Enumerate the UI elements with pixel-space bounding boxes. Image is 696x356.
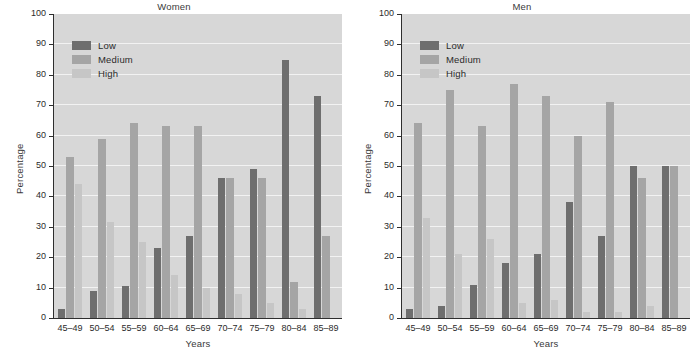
legend-label: Medium — [446, 54, 481, 65]
y-axis-tick — [49, 288, 53, 289]
bar — [470, 285, 478, 318]
y-axis-tick-label: 50 — [10, 160, 46, 170]
bar — [107, 222, 115, 318]
bar — [203, 288, 211, 318]
y-axis-tick — [397, 257, 401, 258]
y-axis-tick — [49, 257, 53, 258]
x-axis-tick-label: 75–79 — [244, 323, 280, 333]
figure: WomenPercentageLowMediumHigh010203040506… — [0, 0, 696, 356]
bar — [322, 236, 330, 318]
y-axis-tick-label: 0 — [10, 312, 46, 322]
plot-area: LowMediumHigh — [54, 14, 342, 318]
legend-swatch-low — [72, 41, 91, 50]
y-axis-tick — [49, 227, 53, 228]
y-axis-tick-label: 30 — [10, 221, 46, 231]
bar — [551, 300, 559, 318]
bar — [75, 184, 83, 318]
gridline — [54, 104, 342, 105]
legend-item[interactable]: High — [420, 66, 481, 80]
x-axis-spine — [53, 318, 342, 319]
y-axis-tick — [49, 75, 53, 76]
legend-label: High — [98, 68, 118, 79]
y-axis-tick-label: 20 — [358, 251, 394, 261]
bar — [638, 178, 646, 318]
legend-item[interactable]: Low — [72, 38, 133, 52]
bar — [250, 169, 258, 318]
y-axis-tick-label: 70 — [10, 99, 46, 109]
bar — [122, 286, 130, 318]
y-axis-tick-label: 50 — [358, 160, 394, 170]
x-axis-tick-label: 85–89 — [656, 323, 692, 333]
x-axis-tick-label: 60–64 — [496, 323, 532, 333]
bar — [487, 239, 495, 318]
y-axis-tick-label: 0 — [358, 312, 394, 322]
x-axis-tick-label: 65–69 — [528, 323, 564, 333]
bar — [314, 96, 322, 318]
y-axis-tick — [397, 196, 401, 197]
chart-panel-men: MenPercentageLowMediumHigh01020304050607… — [348, 0, 696, 356]
bar — [90, 291, 98, 318]
y-axis-tick-label: 30 — [358, 221, 394, 231]
legend-swatch-medium — [72, 55, 91, 64]
y-axis-tick — [397, 227, 401, 228]
bar — [606, 102, 614, 318]
bar — [534, 254, 542, 318]
chart-panel-women: WomenPercentageLowMediumHigh010203040506… — [0, 0, 348, 356]
y-axis-tick-label: 100 — [358, 8, 394, 18]
bar — [267, 303, 275, 318]
x-axis-tick-label: 70–74 — [560, 323, 596, 333]
legend-label: Low — [98, 40, 116, 51]
legend-item[interactable]: Low — [420, 38, 481, 52]
y-axis-tick-label: 80 — [358, 69, 394, 79]
x-axis-tick-label: 85–89 — [308, 323, 344, 333]
legend-item[interactable]: Medium — [72, 52, 133, 66]
legend-label: Low — [446, 40, 464, 51]
y-axis-tick-label: 90 — [358, 38, 394, 48]
bar — [455, 254, 463, 318]
bar — [647, 306, 655, 318]
bar — [299, 309, 307, 318]
y-axis-tick — [49, 166, 53, 167]
x-axis-tick-label: 45–49 — [52, 323, 88, 333]
x-axis-tick-label: 80–84 — [276, 323, 312, 333]
bar — [258, 178, 266, 318]
legend-swatch-high — [72, 69, 91, 78]
bar — [58, 309, 66, 318]
legend-item[interactable]: Medium — [420, 52, 481, 66]
x-axis-tick-label: 50–54 — [432, 323, 468, 333]
bar — [502, 263, 510, 318]
x-axis-label: Years — [402, 338, 690, 349]
bar — [282, 60, 290, 318]
bar — [154, 248, 162, 318]
legend-item[interactable]: High — [72, 66, 133, 80]
x-axis-tick-label: 60–64 — [148, 323, 184, 333]
bar — [130, 123, 138, 318]
legend-swatch-medium — [420, 55, 439, 64]
x-axis-tick-label: 45–49 — [400, 323, 436, 333]
y-axis-tick-label: 10 — [358, 282, 394, 292]
bar — [186, 236, 194, 318]
y-axis-tick — [397, 288, 401, 289]
x-axis-tick-label: 65–69 — [180, 323, 216, 333]
bar — [519, 303, 527, 318]
chart-title: Men — [348, 1, 696, 12]
bar — [446, 90, 454, 318]
bar — [406, 309, 414, 318]
y-axis-tick — [49, 105, 53, 106]
bar — [510, 84, 518, 318]
y-axis-tick — [49, 136, 53, 137]
y-axis-tick-label: 100 — [10, 8, 46, 18]
y-axis-tick — [397, 136, 401, 137]
y-axis-tick — [397, 75, 401, 76]
x-axis-tick-label: 70–74 — [212, 323, 248, 333]
bar — [98, 139, 106, 318]
legend-label: Medium — [98, 54, 133, 65]
bar — [566, 202, 574, 318]
x-axis-label: Years — [54, 338, 342, 349]
bar — [218, 178, 226, 318]
y-axis-tick — [49, 44, 53, 45]
y-axis-tick-label: 10 — [10, 282, 46, 292]
bar — [226, 178, 234, 318]
bar — [662, 166, 670, 318]
y-axis-tick — [397, 44, 401, 45]
